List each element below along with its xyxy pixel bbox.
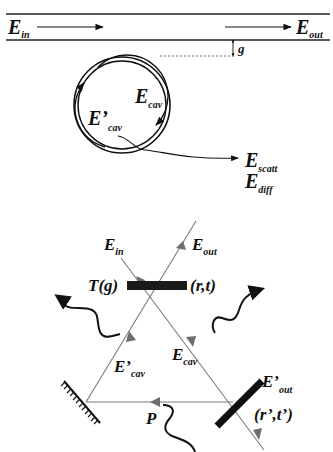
exit-arrowhead bbox=[253, 428, 262, 440]
waveguide-output-label: Eout bbox=[295, 16, 324, 40]
gap-label: g bbox=[237, 41, 245, 56]
cavity-output-label: Eout bbox=[191, 235, 218, 257]
loss-wave-bottom bbox=[163, 405, 195, 452]
input-coupler-mirror bbox=[127, 281, 187, 290]
output-mirror-rt-label: (r’,t’) bbox=[254, 405, 293, 424]
ring-cw-field-label: Ecav bbox=[134, 85, 163, 110]
cavity-cw-field-label: Ecav bbox=[171, 345, 198, 367]
cavity-ccw-field-label: E’cav bbox=[113, 357, 145, 379]
point-p-label: P bbox=[145, 409, 157, 428]
ccw-arrowhead bbox=[126, 331, 136, 342]
coupler-transmission-label: T(g) bbox=[88, 276, 118, 295]
waveguide bbox=[6, 14, 330, 40]
cavity-input-label: Ein bbox=[103, 235, 124, 257]
loss-wave-left bbox=[57, 296, 120, 337]
cw-circulation-arrow bbox=[98, 55, 168, 125]
ring-ccw-field-label: E’cav bbox=[87, 107, 122, 133]
bottom-arrowhead bbox=[150, 397, 160, 407]
coupler-rt-label: (r,t) bbox=[190, 276, 216, 295]
gap-indicator bbox=[160, 42, 235, 56]
out-arrowhead bbox=[176, 241, 186, 250]
waveguide-input-label: Ein bbox=[7, 16, 30, 40]
second-output-label: E’out bbox=[261, 372, 294, 395]
scatter-arrow bbox=[118, 136, 238, 158]
cw-arrowhead bbox=[186, 336, 196, 347]
resonator-diagram: Ein Eout g Ecav E’cav Escatt Ediff bbox=[0, 0, 333, 452]
loss-wave-right bbox=[213, 289, 262, 333]
